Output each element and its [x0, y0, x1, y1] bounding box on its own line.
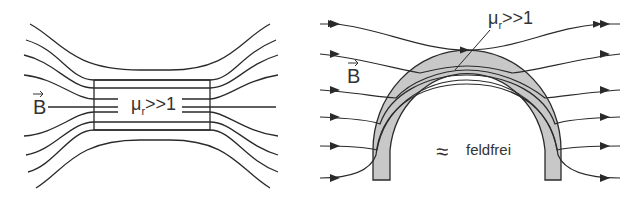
diagram-canvas: [0, 0, 636, 197]
left-field-label: B: [33, 96, 46, 119]
right-field-label: B: [347, 65, 360, 88]
right-material-label: μr>>1: [488, 8, 533, 31]
left-material-label: μr>>1: [128, 94, 179, 117]
approx-symbol: ≈: [436, 139, 448, 165]
field-free-label: feldfrei: [466, 141, 511, 158]
